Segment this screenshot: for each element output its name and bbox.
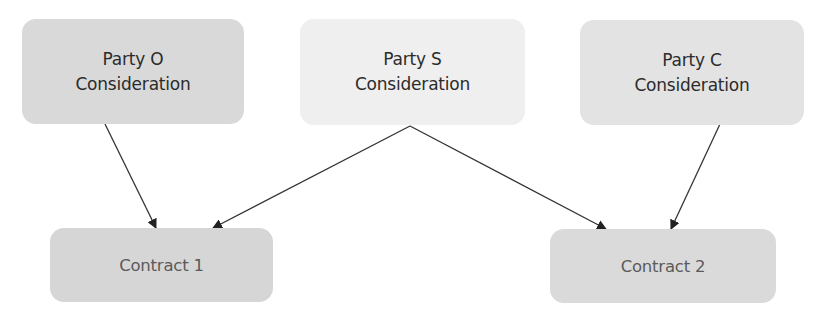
party-s-consideration-node: Party S Consideration [300, 19, 525, 125]
party-c-consideration-node: Party C Consideration [580, 20, 804, 125]
contract-1-node: Contract 1 [50, 228, 273, 302]
node-label: Party C Consideration [634, 48, 749, 98]
edge-party-s-to-contract-1 [213, 126, 410, 228]
edge-party-o-to-contract-1 [105, 124, 156, 228]
edge-party-s-to-contract-2 [410, 126, 606, 229]
node-label: Party O Consideration [75, 47, 190, 97]
node-label: Contract 2 [621, 254, 706, 279]
node-label: Party S Consideration [355, 47, 470, 97]
party-o-consideration-node: Party O Consideration [22, 19, 244, 124]
edge-party-c-to-contract-2 [671, 124, 720, 229]
node-label: Contract 1 [119, 253, 204, 278]
contract-2-node: Contract 2 [550, 229, 776, 303]
